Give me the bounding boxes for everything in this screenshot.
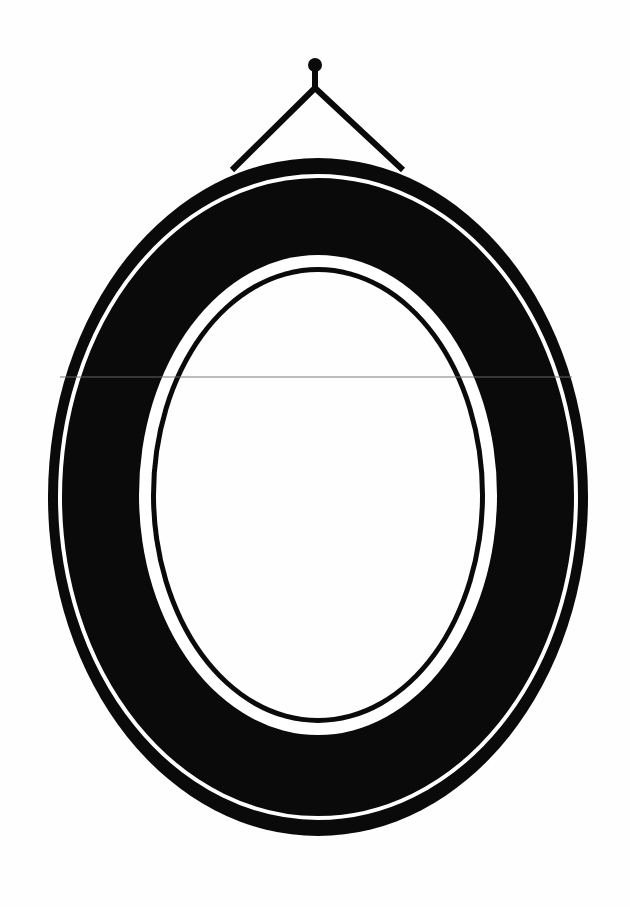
- frame-opening: [156, 272, 480, 718]
- hanging-wire: [232, 88, 403, 170]
- oval-frame: [48, 158, 588, 836]
- illustration-canvas: Oval picture frame hanging on a nail: [0, 0, 630, 907]
- picture-frame-illustration: [0, 0, 630, 907]
- nail-icon: [308, 58, 322, 90]
